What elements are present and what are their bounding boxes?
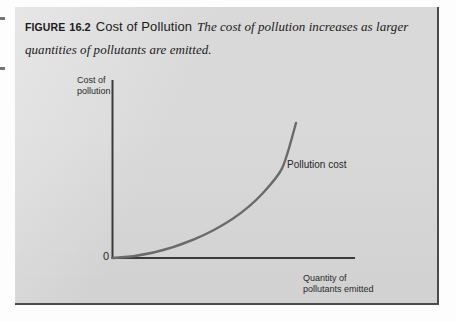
- origin-label: 0: [103, 250, 109, 262]
- y-axis-label: Cost of pollution: [77, 75, 111, 97]
- plot-svg: [15, 7, 439, 305]
- cost-curve: [113, 123, 296, 258]
- figure-page: FIGURE16.2Cost of PollutionThe cost of p…: [0, 0, 456, 322]
- scan-artifact-mark: [0, 17, 5, 20]
- curve-annotation-label: Pollution cost: [287, 159, 346, 170]
- scan-artifact-mark: [0, 67, 5, 70]
- plot-area: [15, 7, 439, 305]
- x-axis-label: Quantity of pollutants emitted: [303, 273, 374, 295]
- figure-panel: FIGURE16.2Cost of PollutionThe cost of p…: [15, 7, 439, 305]
